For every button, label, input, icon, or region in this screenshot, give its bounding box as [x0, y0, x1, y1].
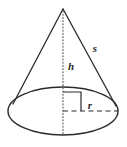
right-angle-marker-icon	[63, 92, 81, 111]
slant-height-label: s	[92, 42, 97, 54]
cone-diagram: Cone with height, radius and slant heigh…	[0, 0, 127, 147]
radius-label: r	[88, 99, 93, 111]
height-label: h	[68, 60, 74, 72]
cone-figure-canvas: Cone with height, radius and slant heigh…	[0, 0, 127, 147]
